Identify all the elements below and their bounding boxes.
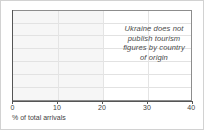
vertical-gridline <box>58 11 59 100</box>
horizontal-gridline <box>13 87 191 88</box>
annotation-line-4: of origin <box>111 53 197 63</box>
vertical-gridline <box>103 11 104 100</box>
y-axis-line <box>12 10 13 102</box>
chart-annotation: Ukraine does not publish tourism figures… <box>111 24 197 62</box>
x-tick-label-0: 0 <box>10 104 14 111</box>
x-tick-label-40: 40 <box>187 104 195 111</box>
annotation-line-1: Ukraine does not <box>111 24 197 34</box>
x-axis-title: % of total arrivals <box>12 114 66 121</box>
x-tick-label-30: 30 <box>143 104 151 111</box>
x-tick-label-20: 20 <box>98 104 106 111</box>
horizontal-gridline <box>13 74 191 75</box>
annotation-line-2: publish tourism <box>111 34 197 44</box>
x-tick-label-10: 10 <box>53 104 61 111</box>
annotation-line-3: figures by country <box>111 43 197 53</box>
chart-figure: Ukraine does not publish tourism figures… <box>0 0 204 130</box>
